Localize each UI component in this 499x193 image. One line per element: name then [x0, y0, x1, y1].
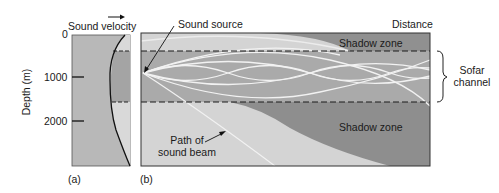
sound-source-label: Sound source: [178, 18, 243, 30]
shadow-zone-bottom-label: Shadow zone: [339, 121, 403, 133]
panel-b-caption: (b): [140, 173, 153, 185]
distance-label: Distance: [392, 18, 433, 30]
sofar-label-line2: channel: [447, 76, 497, 88]
depth-tick-2000: 2000: [44, 115, 67, 127]
depth-tick-0: 0: [62, 28, 68, 40]
depth-axis-label: Depth (m): [20, 62, 32, 122]
sound-velocity-title: Sound velocity: [68, 20, 136, 32]
depth-tick-1000: 1000: [44, 71, 67, 83]
sofar-brace: [437, 51, 447, 102]
sound-beam-label: Path of sound beam: [152, 134, 222, 158]
sound-beam-label-line2: sound beam: [152, 146, 222, 158]
panel-a-caption: (a): [68, 173, 81, 185]
velocity-profile-panel: [72, 15, 130, 167]
sofar-label-line1: Sofar: [447, 64, 497, 76]
shadow-zone-top-label: Shadow zone: [339, 37, 403, 49]
sofar-label: Sofar channel: [447, 64, 497, 88]
sound-beam-label-line1: Path of: [152, 134, 222, 146]
